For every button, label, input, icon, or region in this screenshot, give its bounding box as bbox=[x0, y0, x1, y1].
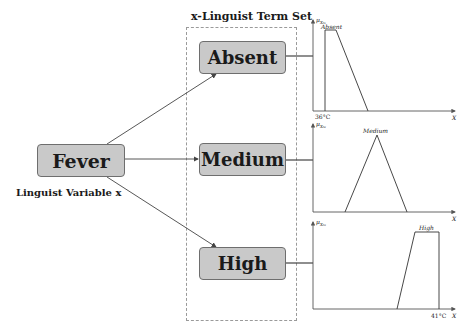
plot-high bbox=[313, 222, 455, 309]
plot-absent bbox=[313, 20, 455, 111]
fever-node[interactable]: Fever bbox=[37, 144, 125, 177]
fever-to-high-arrow bbox=[107, 177, 216, 247]
term-node-absent[interactable]: Absent bbox=[199, 41, 286, 74]
medium-curve-label: Medium bbox=[362, 127, 388, 134]
absent-curve-label: Absent bbox=[320, 23, 343, 30]
high-curve-label: High bbox=[418, 224, 434, 232]
svg-text:X: X bbox=[451, 114, 457, 121]
svg-text:X: X bbox=[451, 312, 457, 319]
term-node-high-label: High bbox=[218, 253, 268, 274]
high-tick-label: 41°C bbox=[431, 312, 447, 319]
term-node-medium-label: Medium bbox=[201, 149, 284, 170]
svg-text:μX₀₂: μX₀₂ bbox=[316, 120, 326, 129]
svg-text:X: X bbox=[451, 215, 457, 222]
term-node-absent-label: Absent bbox=[208, 47, 278, 68]
linguistic-variable-caption: Linguist Variable x bbox=[16, 187, 121, 198]
term-node-medium[interactable]: Medium bbox=[199, 143, 286, 176]
fever-node-label: Fever bbox=[52, 150, 110, 172]
term-node-high[interactable]: High bbox=[199, 247, 286, 280]
fever-to-absent-arrow bbox=[107, 74, 216, 144]
absent-tick-label: 36°C bbox=[315, 113, 331, 120]
plot-medium bbox=[313, 124, 455, 212]
svg-text:μX₀₃: μX₀₃ bbox=[316, 218, 326, 227]
